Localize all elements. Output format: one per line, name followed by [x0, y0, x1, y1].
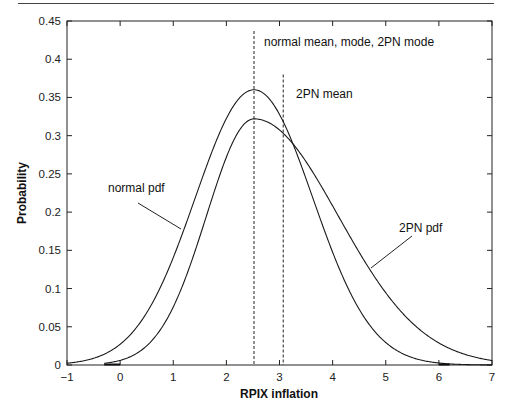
y-tick-label: 0.1	[45, 283, 61, 295]
x-tick-label: 7	[489, 371, 495, 383]
vline-mode-annotation: normal mean, mode, 2PN mode	[264, 35, 434, 49]
y-tick-label: 0.35	[39, 91, 61, 103]
y-tick-label: 0.45	[39, 15, 61, 27]
y-tick-label: 0.4	[45, 53, 62, 65]
reference-lines	[254, 31, 283, 365]
y-axis-title: Probability	[15, 162, 29, 224]
y-tick-label: 0	[55, 359, 61, 371]
normal-pdf-leader-line	[138, 203, 181, 229]
x-axis-ticks: −101234567	[60, 21, 495, 383]
vline-2pn-mean-annotation: 2PN mean	[296, 87, 353, 101]
y-tick-label: 0.2	[45, 206, 61, 218]
x-tick-label: 0	[117, 371, 123, 383]
x-tick-label: 5	[383, 371, 389, 383]
2pn-pdf-curve	[104, 119, 492, 363]
chart: −101234567 00.050.10.150.20.250.30.350.4…	[0, 0, 509, 415]
2pn-pdf-leader-line	[371, 236, 412, 268]
y-tick-label: 0.15	[39, 244, 61, 256]
y-tick-label: 0.3	[45, 130, 61, 142]
normal-pdf-annotation: normal pdf	[108, 181, 165, 195]
x-tick-label: 4	[329, 371, 336, 383]
x-axis-title: RPIX inflation	[240, 387, 318, 401]
x-tick-label: 6	[436, 371, 442, 383]
x-tick-label: 2	[223, 371, 229, 383]
y-axis-ticks: 00.050.10.150.20.250.30.350.40.45	[39, 15, 492, 371]
2pn-pdf-annotation: 2PN pdf	[399, 221, 443, 235]
x-tick-label: 1	[170, 371, 176, 383]
x-tick-label: −1	[60, 371, 73, 383]
y-tick-label: 0.05	[39, 321, 61, 333]
x-tick-label: 3	[276, 371, 282, 383]
y-tick-label: 0.25	[39, 168, 61, 180]
